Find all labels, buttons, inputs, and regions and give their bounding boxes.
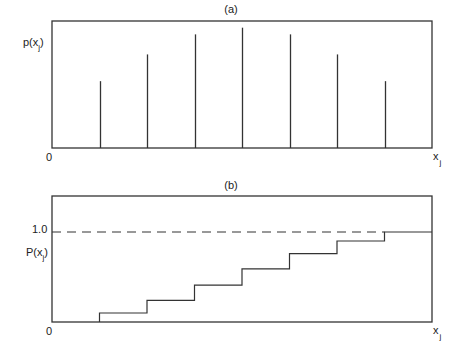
panel-b-xlabel: xj (433, 324, 442, 341)
stems-a (101, 28, 386, 148)
panel-a-title: (a) (224, 3, 237, 15)
panel-a-xlabel: xj (433, 150, 442, 167)
panel-a: (a) p(xj) 0 xj (23, 3, 442, 167)
panel-b-title: (b) (224, 179, 237, 191)
cdf-step-line (100, 232, 433, 322)
panel-a-origin-label: 0 (46, 151, 52, 163)
panel-b-ylabel: P(xj) (26, 246, 48, 262)
panel-a-ylabel: p(xj) (23, 36, 44, 52)
panel-b-frame (52, 196, 432, 322)
figure: (a) p(xj) 0 xj (b) 1.0 P(xj) 0 xj (0, 0, 462, 357)
panel-b-origin-label: 0 (46, 325, 52, 337)
panel-b: (b) 1.0 P(xj) 0 xj (26, 179, 442, 341)
panel-b-ytick-label: 1.0 (32, 223, 47, 235)
